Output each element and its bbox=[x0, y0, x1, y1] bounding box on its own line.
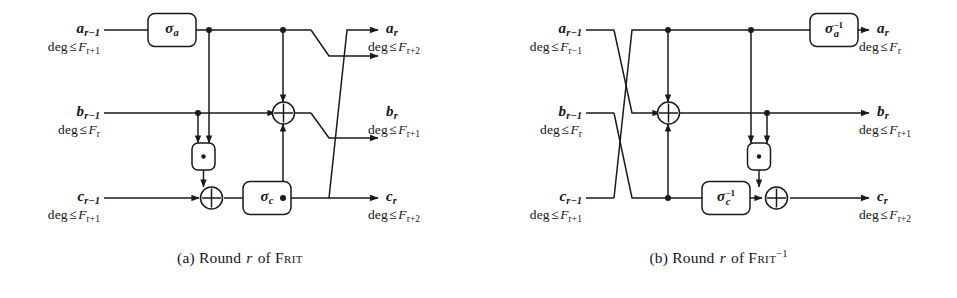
input-signal-c: cr−1 bbox=[77, 189, 100, 206]
junction-dots bbox=[665, 27, 770, 201]
output-degree-b: deg≤Fr+1 bbox=[859, 123, 911, 139]
input-degree-b: deg≤Fr bbox=[540, 123, 582, 139]
input-degree-b: deg≤Fr bbox=[58, 123, 100, 139]
output-label-b: br bbox=[386, 104, 398, 121]
sigma-c-inverse-gate-label: σ−1c bbox=[717, 189, 735, 207]
junction-dot bbox=[280, 27, 286, 33]
and-gate-dot-glyph bbox=[757, 154, 761, 158]
input-signal-c: cr−1 bbox=[559, 189, 582, 206]
input-degree-a: deg≤Fr+1 bbox=[48, 40, 100, 56]
output-signal-b: br bbox=[386, 104, 398, 121]
junction-dot bbox=[195, 110, 201, 116]
output-label-a: ar bbox=[877, 21, 889, 38]
output-label-b: br bbox=[877, 104, 889, 121]
input-label-c: cr−1 bbox=[559, 189, 582, 206]
output-label-c: cr bbox=[386, 189, 397, 206]
output-degree-c: deg≤Fr+2 bbox=[368, 208, 420, 224]
input-label-c: cr−1 bbox=[77, 189, 100, 206]
panel-frit-round: ar−1 deg≤Fr+1 br−1 deg≤Fr cr−1 deg≤Fr+1 … bbox=[0, 0, 480, 298]
figure-root: ar−1 deg≤Fr+1 br−1 deg≤Fr cr−1 deg≤Fr+1 … bbox=[0, 0, 957, 298]
output-signal-c: cr bbox=[386, 189, 397, 206]
panel-caption-b: (b) Round r of Frit−1 bbox=[480, 248, 957, 267]
junction-dot bbox=[665, 195, 671, 201]
output-degree-a: deg≤Fr bbox=[859, 40, 901, 56]
panel-caption-a: (a) Round r of Frit bbox=[0, 248, 480, 267]
junction-dot bbox=[280, 195, 286, 201]
input-signal-a: ar−1 bbox=[559, 21, 582, 38]
sigma-a-inverse-gate-label: σ−1a bbox=[825, 21, 843, 39]
output-signal-c: cr bbox=[877, 189, 888, 206]
input-signal-b: br−1 bbox=[559, 104, 582, 121]
input-label-b: br−1 bbox=[77, 104, 100, 121]
cross-b-to-bottom bbox=[614, 113, 660, 198]
input-signal-a: ar−1 bbox=[77, 21, 100, 38]
output-signal-a: ar bbox=[386, 21, 398, 38]
input-label-b: br−1 bbox=[559, 104, 582, 121]
output-label-a: ar bbox=[386, 21, 398, 38]
junction-dot bbox=[665, 27, 671, 33]
output-degree-c: deg≤Fr+2 bbox=[859, 208, 911, 224]
output-degree-b: deg≤Fr+1 bbox=[368, 123, 420, 139]
output-signal-a: ar bbox=[877, 21, 889, 38]
panel-frit-inverse-round: ar−1 deg≤Fr−1 br−1 deg≤Fr cr−1 deg≤Fr+1 … bbox=[480, 0, 957, 298]
input-degree-a: deg≤Fr−1 bbox=[530, 40, 582, 56]
cross-c-to-top bbox=[614, 30, 660, 198]
output-label-c: cr bbox=[877, 189, 888, 206]
junction-dot bbox=[206, 27, 212, 33]
output-degree-a: deg≤Fr+2 bbox=[368, 40, 420, 56]
output-signal-b: br bbox=[877, 104, 889, 121]
input-label-a: ar−1 bbox=[77, 21, 100, 38]
junction-dot bbox=[748, 27, 754, 33]
and-gate-dot-glyph bbox=[201, 154, 205, 158]
sigma-c-gate-label: σc bbox=[261, 189, 274, 207]
input-degree-c: deg≤Fr+1 bbox=[48, 208, 100, 224]
input-degree-c: deg≤Fr+1 bbox=[530, 208, 582, 224]
input-label-a: ar−1 bbox=[559, 21, 582, 38]
input-signal-b: br−1 bbox=[77, 104, 100, 121]
cross-a-to-mid bbox=[614, 30, 660, 113]
junction-dot bbox=[764, 110, 770, 116]
sigma-a-gate-label: σa bbox=[165, 21, 178, 39]
